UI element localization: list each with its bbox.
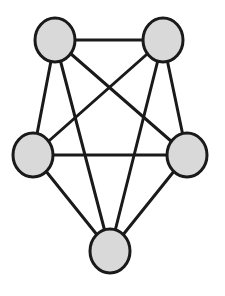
- graph-diagram: [0, 0, 225, 296]
- node-mid-left: [13, 133, 53, 177]
- edge-group: [33, 40, 187, 251]
- node-top-left: [35, 18, 75, 62]
- node-group: [13, 18, 207, 273]
- node-mid-right: [167, 133, 207, 177]
- node-bottom: [90, 229, 130, 273]
- edge-top-left-bottom: [55, 40, 110, 251]
- node-top-right: [143, 18, 183, 62]
